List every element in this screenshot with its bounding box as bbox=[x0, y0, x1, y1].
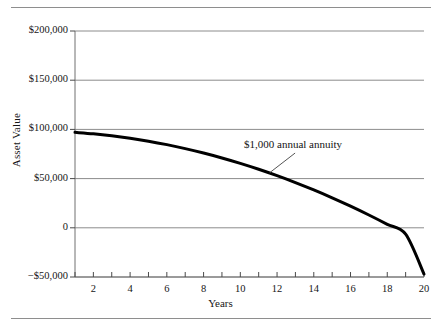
y-axis-tick-label: $150,000 bbox=[29, 74, 68, 85]
x-axis-title: Years bbox=[0, 297, 441, 309]
gridlines-group bbox=[75, 31, 424, 277]
x-axis-ticks-group bbox=[75, 272, 424, 277]
figure-container: $200,000$150,000$100,000$50,0000−$50,000… bbox=[0, 0, 441, 332]
y-axis-ticks-group bbox=[70, 31, 75, 277]
x-axis-tick-label: 12 bbox=[257, 284, 297, 295]
series-annotation-label: $1,000 annual annuity bbox=[244, 138, 342, 150]
x-axis-tick-label: 18 bbox=[367, 284, 407, 295]
x-axis-tick-label: 2 bbox=[73, 284, 113, 295]
y-axis-tick-label: $50,000 bbox=[34, 173, 68, 184]
x-axis-tick-label: 16 bbox=[331, 284, 371, 295]
x-axis-tick-label: 10 bbox=[220, 284, 260, 295]
y-axis-title: Asset Value bbox=[10, 113, 22, 167]
y-axis-tick-label: −$50,000 bbox=[28, 271, 68, 282]
y-axis-tick-label: $200,000 bbox=[29, 25, 68, 36]
chart-plot-area bbox=[0, 0, 441, 332]
axis-spines-group bbox=[75, 31, 424, 277]
x-axis-tick-label: 4 bbox=[110, 284, 150, 295]
y-axis-tick-label: $100,000 bbox=[29, 123, 68, 134]
data-series-group bbox=[75, 132, 424, 274]
y-axis-tick-label: 0 bbox=[63, 222, 68, 233]
x-axis-tick-label: 20 bbox=[404, 284, 441, 295]
x-axis-tick-label: 14 bbox=[294, 284, 334, 295]
data-series-line bbox=[75, 132, 424, 274]
annotation-leader-line bbox=[270, 153, 295, 173]
x-axis-tick-label: 8 bbox=[184, 284, 224, 295]
x-axis-tick-label: 6 bbox=[147, 284, 187, 295]
annotation-leader-line-group bbox=[270, 153, 295, 173]
